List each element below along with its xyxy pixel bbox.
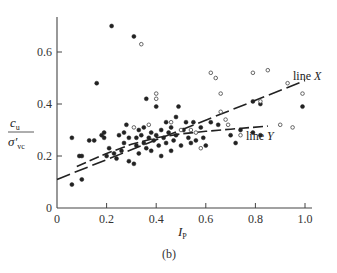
filled-data-point bbox=[102, 136, 106, 140]
filled-data-point bbox=[229, 133, 233, 137]
line-x-label: line X bbox=[293, 69, 322, 83]
filled-data-point bbox=[162, 136, 166, 140]
filled-data-point bbox=[142, 125, 146, 129]
y-axis-label: cu σ′vc bbox=[8, 115, 34, 151]
filled-data-point bbox=[189, 141, 193, 145]
filled-data-point bbox=[154, 105, 158, 109]
open-data-point bbox=[169, 120, 173, 124]
open-data-point bbox=[189, 128, 193, 132]
filled-data-point bbox=[194, 138, 198, 142]
filled-data-point bbox=[159, 154, 163, 158]
filled-data-point bbox=[167, 131, 171, 135]
filled-data-point bbox=[154, 133, 158, 137]
filled-data-point bbox=[234, 141, 238, 145]
filled-data-point bbox=[115, 157, 119, 161]
filled-data-point bbox=[204, 144, 208, 148]
filled-data-point bbox=[174, 115, 178, 119]
filled-data-point bbox=[201, 136, 205, 140]
filled-data-point bbox=[110, 24, 114, 28]
open-data-point bbox=[291, 126, 295, 130]
filled-data-point bbox=[144, 146, 148, 150]
filled-data-point bbox=[120, 149, 124, 153]
open-data-point bbox=[132, 126, 136, 130]
x-tick-label: 1.0 bbox=[298, 212, 313, 226]
filled-data-point bbox=[239, 128, 243, 132]
filled-data-point bbox=[209, 120, 213, 124]
filled-data-point bbox=[137, 128, 141, 132]
filled-data-point bbox=[132, 34, 136, 38]
filled-data-point bbox=[92, 138, 96, 142]
x-tick-label: 0.2 bbox=[99, 212, 114, 226]
svg-text:σ′vc: σ′vc bbox=[8, 134, 25, 151]
filled-data-point bbox=[251, 99, 255, 103]
filled-data-point bbox=[139, 133, 143, 137]
filled-data-point bbox=[159, 128, 163, 132]
open-data-point bbox=[259, 100, 263, 104]
y-tick-label: 0.2 bbox=[37, 149, 52, 163]
open-data-point bbox=[219, 110, 223, 114]
filled-data-point bbox=[174, 133, 178, 137]
filled-data-point bbox=[80, 177, 84, 181]
filled-data-point bbox=[186, 136, 190, 140]
open-data-point bbox=[140, 42, 144, 46]
filled-data-point bbox=[102, 131, 106, 135]
x-tick-label: 0.4 bbox=[149, 212, 164, 226]
open-data-point bbox=[194, 131, 198, 135]
filled-data-point bbox=[87, 138, 91, 142]
filled-data-point bbox=[216, 123, 220, 127]
filled-data-point bbox=[149, 149, 153, 153]
line-y-label: line Y bbox=[246, 129, 275, 143]
filled-data-point bbox=[105, 154, 109, 158]
filled-data-point bbox=[117, 133, 121, 137]
filled-data-point bbox=[149, 131, 153, 135]
filled-data-point bbox=[169, 125, 173, 129]
y-tick-label: 0.4 bbox=[37, 97, 52, 111]
open-data-point bbox=[286, 81, 290, 85]
x-axis-label: IP bbox=[177, 224, 187, 241]
scatter-chart: 00.20.40.60.81.000.20.40.6 cu σ′vc IP li… bbox=[0, 0, 337, 273]
filled-data-point bbox=[132, 162, 136, 166]
filled-data-point bbox=[152, 138, 156, 142]
filled-data-point bbox=[164, 120, 168, 124]
filled-data-point bbox=[147, 136, 151, 140]
filled-data-point bbox=[172, 138, 176, 142]
axes: 00.20.40.60.81.000.20.40.6 bbox=[37, 17, 313, 226]
open-data-point bbox=[199, 146, 203, 150]
x-tick-label: 0 bbox=[54, 212, 60, 226]
filled-data-point bbox=[127, 136, 131, 140]
x-tick-label: 0.6 bbox=[198, 212, 213, 226]
open-data-point bbox=[219, 92, 223, 96]
filled-data-point bbox=[137, 151, 141, 155]
filled-data-point bbox=[164, 141, 168, 145]
open-data-point bbox=[179, 128, 183, 132]
filled-data-point bbox=[142, 141, 146, 145]
filled-data-point bbox=[70, 136, 74, 140]
filled-data-point bbox=[179, 144, 183, 148]
filled-data-point bbox=[134, 136, 138, 140]
filled-data-point bbox=[191, 120, 195, 124]
svg-text:cu: cu bbox=[10, 115, 20, 132]
open-data-point bbox=[266, 68, 270, 72]
y-tick-label: 0.6 bbox=[37, 45, 52, 59]
open-data-point bbox=[239, 133, 243, 137]
filled-data-point bbox=[157, 144, 161, 148]
filled-data-point bbox=[80, 154, 84, 158]
filled-data-point bbox=[107, 146, 111, 150]
open-data-point bbox=[147, 123, 151, 127]
filled-data-point bbox=[70, 183, 74, 187]
filled-data-point bbox=[127, 159, 131, 163]
open-data-point bbox=[209, 71, 213, 75]
open-data-point bbox=[154, 97, 158, 101]
filled-data-point bbox=[301, 105, 305, 109]
filled-data-point bbox=[124, 123, 128, 127]
open-data-point bbox=[278, 123, 282, 127]
filled-data-point bbox=[134, 144, 138, 148]
filled-data-point bbox=[199, 125, 203, 129]
filled-data-point bbox=[95, 81, 99, 85]
filled-data-point bbox=[144, 97, 148, 101]
filled-data-point bbox=[184, 120, 188, 124]
open-data-point bbox=[154, 92, 158, 96]
open-data-point bbox=[224, 118, 228, 122]
y-tick-label: 0 bbox=[46, 201, 52, 215]
filled-data-point bbox=[122, 141, 126, 145]
